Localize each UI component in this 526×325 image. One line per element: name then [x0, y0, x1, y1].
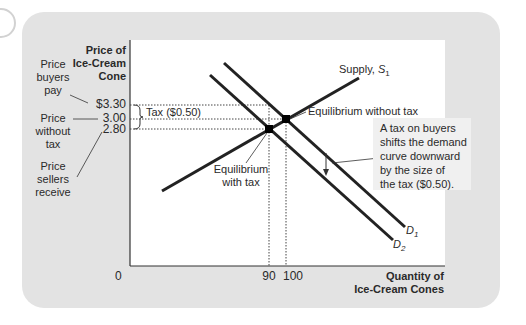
d1-label: D1: [406, 224, 418, 241]
label-line: tax: [30, 138, 76, 151]
x-axis-title-line: Ice-Cream Cones: [330, 283, 444, 296]
y-tick-330: $3.30: [86, 98, 126, 111]
d2-subscript: 2: [401, 244, 405, 253]
annotation-line: A tax on buyers: [380, 121, 467, 135]
label-line: with tax: [208, 176, 274, 189]
label-line: Price: [26, 160, 80, 173]
label-line: buyers: [30, 71, 76, 84]
label-line: without: [30, 125, 76, 138]
x-axis-title-line: Quantity of: [330, 270, 444, 283]
equilibrium-with-tax-label: Equilibrium with tax: [208, 163, 274, 189]
label-line: receive: [26, 186, 80, 199]
label-price-buyers-pay: Price buyers pay: [30, 58, 76, 97]
label-line: Price: [30, 58, 76, 71]
x-tick-100: 100: [279, 270, 307, 283]
annotation-line: the tax ($0.50).: [380, 177, 467, 191]
annotation-line: curve downward: [380, 149, 467, 163]
annotation-line: shifts the demand: [380, 135, 467, 149]
supply-subscript: 1: [385, 69, 389, 78]
label-line: sellers: [26, 173, 80, 186]
annotation-line: by the size of: [380, 163, 467, 177]
label-line: Equilibrium: [208, 163, 274, 176]
supply-label-text: Supply,: [339, 63, 378, 75]
equilibrium-without-tax-label: Equilibrium without tax: [308, 105, 418, 118]
d1-subscript: 1: [414, 230, 418, 239]
equilibrium-without-tax-point: [282, 115, 290, 123]
label-line: Price: [30, 112, 76, 125]
equilibrium-with-tax-point: [265, 125, 273, 133]
annotation-text: A tax on buyers shifts the demand curve …: [380, 121, 467, 191]
d2-symbol: D: [393, 238, 401, 250]
label-line: pay: [30, 84, 76, 97]
supply-label: Supply, S1: [339, 63, 390, 80]
label-price-sellers-receive: Price sellers receive: [26, 160, 80, 199]
y-tick-280: 2.80: [86, 123, 126, 136]
x-axis-title: Quantity of Ice-Cream Cones: [330, 270, 444, 296]
label-price-without-tax: Price without tax: [30, 112, 76, 151]
d2-label: D2: [393, 238, 405, 255]
x-tick-90: 90: [257, 270, 281, 283]
tax-label: Tax ($0.50): [146, 106, 201, 119]
origin-label: 0: [115, 270, 122, 283]
d1-symbol: D: [406, 224, 414, 236]
y-axis-title-line: Price of: [60, 44, 126, 57]
